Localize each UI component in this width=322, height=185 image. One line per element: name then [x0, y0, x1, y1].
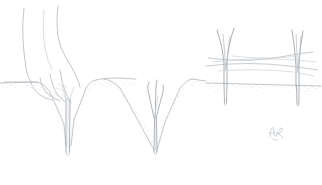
- planting-illustration: [0, 0, 322, 185]
- illustration-canvas: [0, 0, 322, 185]
- paper-background: [0, 0, 322, 185]
